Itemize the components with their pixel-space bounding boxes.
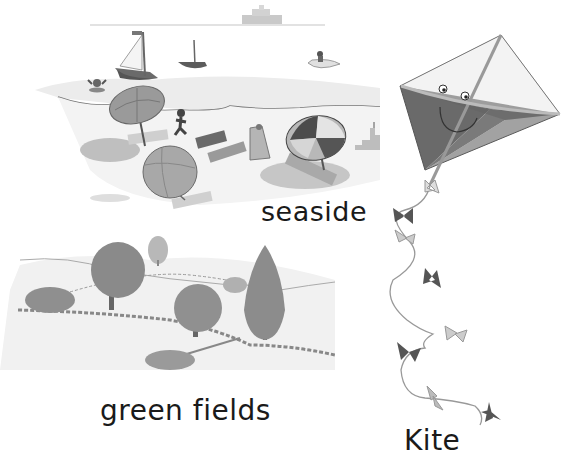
ship-icon <box>242 5 282 24</box>
sailboat-icon <box>115 31 158 80</box>
tree-icon <box>244 245 285 340</box>
kite-illustration <box>385 30 584 430</box>
green-fields-illustration <box>0 230 335 370</box>
seaside-illustration <box>0 0 380 215</box>
bush <box>25 287 75 313</box>
bow-icon <box>395 230 415 244</box>
small-boat-icon <box>178 40 207 68</box>
kite-label: Kite <box>404 424 460 457</box>
bow-icon <box>445 326 467 342</box>
bow-icon <box>397 342 421 362</box>
bow-icon <box>423 268 441 288</box>
bush <box>145 350 195 370</box>
bow-icon <box>481 402 501 422</box>
kite-icon <box>400 35 560 185</box>
green-fields-label: green fields <box>100 394 271 427</box>
seaside-label: seaside <box>261 196 367 227</box>
kite-string <box>390 186 482 425</box>
dinghy-icon <box>308 51 340 68</box>
